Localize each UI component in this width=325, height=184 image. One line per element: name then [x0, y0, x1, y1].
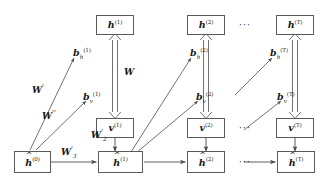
label-W-prime-2: W'2 [91, 129, 107, 142]
double-arrow-hT-vT [289, 34, 301, 119]
node-hhat1-label: ^h(1) [113, 156, 128, 167]
label-b-h-T: bh(T) [270, 48, 288, 61]
node-v1-label: v(1) [108, 122, 121, 133]
label-W: W [124, 68, 134, 77]
node-hT-label: h(T) [288, 19, 303, 30]
node-hhat0: ^h(0) [14, 151, 51, 173]
edge-hhat0-bv1 [36, 101, 86, 150]
node-hhat0-label: ^h(0) [25, 156, 40, 167]
label-b-h-1: bh(1) [73, 48, 91, 61]
ellipsis-bottom: ··· [239, 157, 251, 167]
node-hT: h(T) [276, 15, 314, 35]
node-hhat2: ^h(2) [187, 151, 225, 173]
node-hhatT: ^h(T) [277, 151, 315, 173]
node-h1: h(1) [96, 15, 134, 35]
label-b-h-2: bh(2) [190, 48, 208, 61]
label-b-v-1: bv(1) [83, 92, 100, 105]
node-h2: h(2) [187, 15, 225, 35]
figure-canvas: h(1) h(2) h(T) v(1) v(2) v(T) ^h(0) ^h(1… [0, 0, 325, 184]
label-b-v-T: bv(T) [277, 92, 295, 105]
ellipsis-top: ··· [239, 20, 251, 30]
double-arrow-h1-v1 [109, 34, 121, 119]
edge-hhat0-bh1 [30, 58, 74, 150]
label-W-double-prime: W'' [42, 110, 56, 121]
node-vT-label: v(T) [288, 122, 301, 133]
node-v2-label: v(2) [199, 122, 212, 133]
node-h1-label: h(1) [108, 19, 123, 30]
edge-hhat1-bh2 [131, 58, 191, 152]
node-hhatT-label: ^h(T) [289, 156, 304, 167]
edge-partial-bhT [235, 58, 272, 95]
label-W-prime: W' [32, 84, 44, 95]
label-W-prime-3: W'3 [61, 146, 77, 159]
node-v2: v(2) [187, 118, 225, 138]
ellipsis-mid: ··· [239, 123, 251, 133]
node-hhat1: ^h(1) [98, 151, 143, 173]
node-hhat2-label: ^h(2) [199, 156, 214, 167]
node-vT: v(T) [276, 118, 314, 138]
label-b-v-2: bv(2) [196, 92, 213, 105]
node-h2-label: h(2) [199, 19, 214, 30]
